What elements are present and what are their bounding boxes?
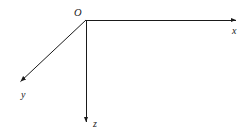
- y-axis-line: [21, 20, 87, 82]
- origin-label: O: [74, 8, 82, 19]
- y-axis-label: y: [21, 90, 25, 100]
- coordinate-axes-diagram: O x y z: [0, 0, 252, 140]
- x-axis-label: x: [232, 26, 236, 36]
- z-axis-label: z: [93, 119, 97, 129]
- axes-drawing: [0, 0, 252, 140]
